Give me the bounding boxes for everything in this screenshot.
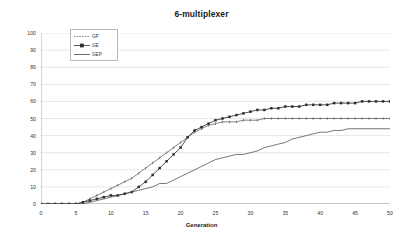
legend-key-ge	[74, 41, 90, 50]
legend-label-gep: GEP	[92, 50, 102, 59]
chart-title: 6-multiplexer	[0, 9, 403, 19]
y-tick-label: 60	[16, 98, 36, 104]
x-tick-label: 25	[206, 210, 226, 216]
series-ge	[41, 100, 390, 204]
legend-label-gp: GP	[92, 32, 99, 41]
y-tick-label: 80	[16, 64, 36, 70]
y-tick-label: 70	[16, 81, 36, 87]
legend-item-ge[interactable]: GE	[74, 41, 115, 50]
legend-item-gep[interactable]: GEP	[74, 50, 115, 59]
y-tick-label: 100	[16, 30, 36, 36]
y-tick-label: 0	[16, 201, 36, 207]
x-tick-label: 5	[66, 210, 86, 216]
x-axis-title: Generation	[0, 222, 403, 228]
x-tick-label: 15	[136, 210, 156, 216]
x-tick-label: 50	[380, 210, 400, 216]
x-tick-label: 0	[31, 210, 51, 216]
x-tick-label: 40	[310, 210, 330, 216]
x-tick-label: 10	[101, 210, 121, 216]
series-gep	[41, 129, 390, 204]
y-tick-label: 20	[16, 167, 36, 173]
y-tick-label: 30	[16, 150, 36, 156]
legend-item-gp[interactable]: GP	[74, 32, 115, 41]
x-tick-label: 20	[171, 210, 191, 216]
x-tick-label: 35	[275, 210, 295, 216]
y-tick-label: 50	[16, 116, 36, 122]
x-tick-label: 30	[240, 210, 260, 216]
y-tick-label: 90	[16, 47, 36, 53]
y-tick-label: 40	[16, 133, 36, 139]
chart-legend: GP GE GEP	[70, 29, 118, 61]
x-tick-label: 45	[345, 210, 365, 216]
legend-key-gp	[74, 32, 90, 41]
legend-key-gep	[74, 50, 90, 59]
chart-figure: 6-multiplexer Success Rate % Generation …	[0, 0, 403, 240]
y-tick-label: 10	[16, 184, 36, 190]
legend-label-ge: GE	[92, 41, 99, 50]
data-series-group	[41, 100, 390, 204]
